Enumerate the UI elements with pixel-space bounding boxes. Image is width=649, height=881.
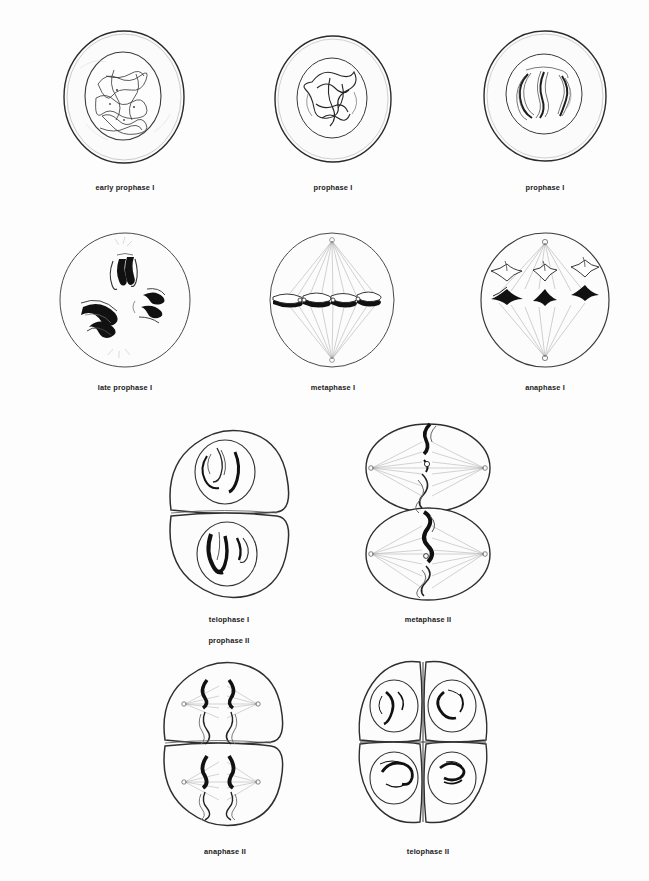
caption-line: prophase I <box>243 183 423 194</box>
panel-anaphase-i <box>477 231 613 369</box>
panel-telophase-ii <box>352 656 494 828</box>
cell-drawing-prophase-i-a <box>272 34 394 165</box>
panel-telophase-i-prophase-ii <box>163 424 295 602</box>
cell-drawing-metaphase-i <box>267 231 398 369</box>
caption-line: prophase I <box>455 183 635 194</box>
nucleus-bottom-right <box>428 752 476 804</box>
caption-line: prophase II <box>139 636 319 647</box>
caption-line: late prophase I <box>35 383 215 394</box>
panel-prophase-i-b <box>482 28 609 164</box>
caption-telophase-ii: telophase II <box>338 836 518 868</box>
caption-line: metaphase II <box>338 615 518 626</box>
caption-prophase-i-b: prophase I <box>455 172 635 204</box>
cell-drawing-anaphase-ii <box>157 656 292 830</box>
panel-anaphase-ii <box>157 656 292 830</box>
caption-anaphase-i: anaphase I <box>455 372 635 404</box>
cell-drawing-early-prophase-i <box>62 28 187 166</box>
panel-early-prophase-i <box>62 28 187 166</box>
caption-anaphase-ii: anaphase II <box>135 836 315 868</box>
panel-late-prophase-i <box>57 231 193 369</box>
meiosis-figure: early prophase I prophase I <box>0 0 649 881</box>
cell-drawing-telophase-ii <box>352 656 494 828</box>
cell-drawing-prophase-i-b <box>482 28 609 164</box>
daughter-cell-lower <box>164 743 283 826</box>
caption-late-prophase-i: late prophase I <box>35 372 215 404</box>
caption-prophase-i-a: prophase I <box>243 172 423 204</box>
nucleus-top-right <box>428 680 476 732</box>
caption-line: telophase I <box>139 615 319 626</box>
caption-metaphase-i: metaphase I <box>243 372 423 404</box>
caption-early-prophase-i: early prophase I <box>35 172 215 204</box>
panel-prophase-i-a <box>272 34 394 165</box>
caption-line: anaphase II <box>135 847 315 858</box>
caption-line: early prophase I <box>35 183 215 194</box>
caption-telophase-i-prophase-ii: telophase I prophase II <box>139 604 319 657</box>
cell-drawing-metaphase-ii <box>360 420 497 604</box>
cell-drawing-anaphase-i <box>477 231 613 369</box>
caption-metaphase-ii: metaphase II <box>338 604 518 636</box>
caption-line: anaphase I <box>455 383 635 394</box>
panel-metaphase-i <box>267 231 398 369</box>
caption-line: telophase II <box>338 847 518 858</box>
panel-metaphase-ii <box>360 420 497 604</box>
caption-line: metaphase I <box>243 383 423 394</box>
cell-drawing-telophase-i-prophase-ii <box>163 424 295 602</box>
cell-drawing-late-prophase-i <box>57 231 193 369</box>
